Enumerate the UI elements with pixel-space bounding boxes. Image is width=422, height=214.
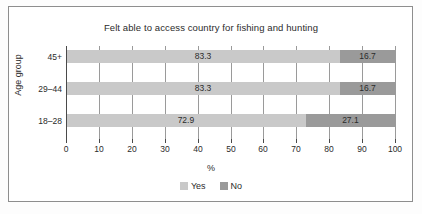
y-axis-tick-label: 18–28 — [2, 116, 62, 126]
x-axis-tick-label: 40 — [193, 144, 202, 154]
legend-swatch-icon — [180, 182, 188, 190]
bar-segment-no[interactable]: 16.7 — [340, 82, 395, 95]
legend-item[interactable]: No — [220, 181, 243, 191]
plot-area: 83.316.783.316.772.927.1 — [66, 46, 395, 139]
x-axis-tick-mark — [66, 139, 67, 143]
legend-swatch-icon — [220, 182, 228, 190]
legend-label: No — [231, 181, 243, 191]
figure: Felt able to access country for fishing … — [0, 0, 422, 214]
x-axis-tick-mark — [362, 139, 363, 143]
x-axis-tick-mark — [198, 139, 199, 143]
y-axis-tick-labels: 45+29–4418–28 — [0, 46, 62, 139]
legend-item[interactable]: Yes — [180, 181, 206, 191]
x-axis-tick-label: 70 — [291, 144, 300, 154]
bar-segment-no[interactable]: 16.7 — [340, 50, 395, 63]
x-axis-tick-mark — [132, 139, 133, 143]
gridline — [395, 46, 396, 139]
x-axis-tick-mark — [296, 139, 297, 143]
x-axis-tick-mark — [165, 139, 166, 143]
x-axis-title: % — [0, 163, 422, 173]
x-axis-tick-label: 0 — [64, 144, 69, 154]
bar-row[interactable]: 83.316.7 — [66, 50, 395, 63]
x-axis-tick-label: 80 — [324, 144, 333, 154]
legend-label: Yes — [191, 181, 206, 191]
x-axis-tick-mark — [263, 139, 264, 143]
x-axis-tick-mark — [99, 139, 100, 143]
x-axis-tick-mark — [395, 139, 396, 143]
legend: YesNo — [0, 181, 422, 191]
x-axis-tick-mark — [329, 139, 330, 143]
x-axis-tick-label: 10 — [94, 144, 103, 154]
x-axis-tick-label: 50 — [226, 144, 235, 154]
x-axis-tick-label: 90 — [357, 144, 366, 154]
chart-title: Felt able to access country for fishing … — [0, 22, 422, 33]
y-axis-tick-label: 45+ — [2, 52, 62, 62]
x-axis-tick-label: 100 — [388, 144, 402, 154]
x-axis-tick-label: 30 — [160, 144, 169, 154]
x-axis-tick-label: 20 — [127, 144, 136, 154]
bar-row[interactable]: 83.316.7 — [66, 82, 395, 95]
bar-segment-yes[interactable]: 83.3 — [66, 50, 340, 63]
bar-segment-yes[interactable]: 83.3 — [66, 82, 340, 95]
y-axis-line — [66, 46, 67, 139]
bar-segment-yes[interactable]: 72.9 — [66, 114, 306, 127]
x-axis: 0102030405060708090100 — [66, 141, 395, 155]
x-axis-tick-label: 60 — [258, 144, 267, 154]
bar-row[interactable]: 72.927.1 — [66, 114, 395, 127]
bar-segment-no[interactable]: 27.1 — [306, 114, 395, 127]
y-axis-tick-label: 29–44 — [2, 84, 62, 94]
x-axis-tick-mark — [231, 139, 232, 143]
